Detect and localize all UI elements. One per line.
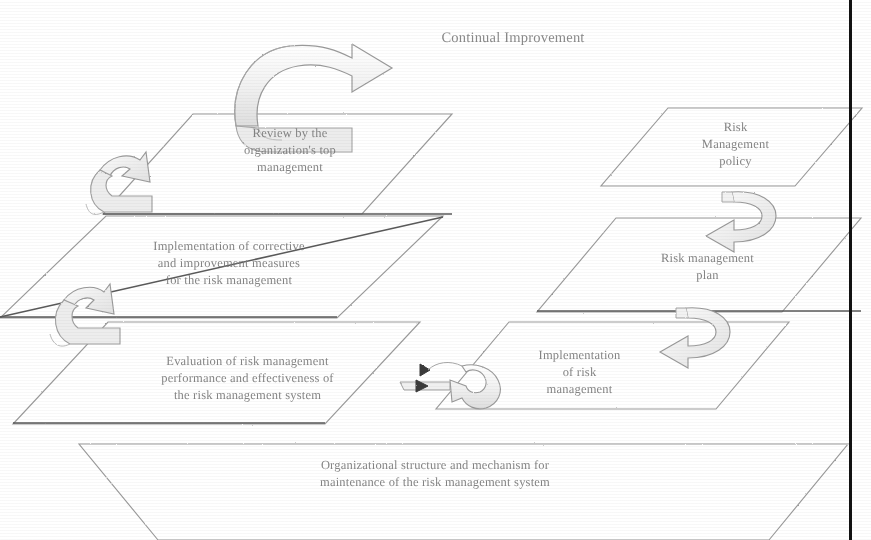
diagram-title: Continual Improvement	[418, 28, 608, 48]
review-to-corrective-arrow	[86, 152, 152, 214]
plane-label-review: Review by the organization's top managem…	[200, 125, 380, 176]
plan-to-implementation-arrow	[660, 308, 730, 368]
plane-label-corrective: Implementation of corrective and improve…	[104, 238, 354, 289]
plane-label-plan: Risk management plan	[610, 250, 805, 284]
corrective-to-evaluation-arrow	[50, 284, 120, 346]
page-right-border	[849, 0, 852, 540]
plane-label-policy: Risk Management policy	[663, 119, 808, 170]
plane-label-evaluation: Evaluation of risk management performanc…	[115, 353, 380, 404]
diagram-canvas: Continual Improvement Review by the orga…	[0, 0, 871, 540]
policy-to-plan-arrow	[706, 192, 776, 252]
implementation-to-evaluation-arrow	[400, 363, 500, 409]
plane-label-implementation: Implementation of risk management	[502, 347, 657, 398]
plane-label-organizational: Organizational structure and mechanism f…	[230, 457, 640, 491]
